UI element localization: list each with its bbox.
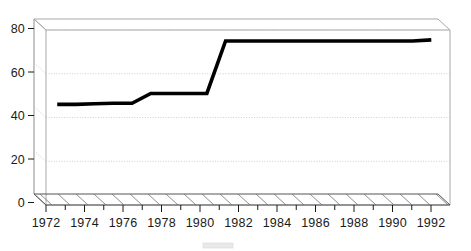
x-axis-label-1986: 1986 [301, 216, 330, 230]
legend-swatch-series-1 [203, 243, 233, 248]
chart-3d-frame [34, 19, 450, 205]
chart-container: 80 60 40 20 0 [0, 0, 471, 251]
y-axis-labels: 80 60 40 20 0 [11, 22, 25, 210]
x-axis-label-1982: 1982 [224, 216, 253, 230]
gridline-depth-20 [34, 150, 46, 161]
gridline-depth-40 [34, 107, 46, 118]
top-depth-edge [34, 19, 450, 30]
x-axis-ticks [46, 205, 431, 212]
floor-hatching [40, 194, 448, 205]
y-axis-ticks [28, 29, 34, 203]
y-axis-label-80: 80 [11, 22, 25, 36]
y-axis-label-60: 60 [11, 66, 25, 80]
line-chart: 80 60 40 20 0 [0, 0, 471, 251]
y-axis-label-0: 0 [18, 196, 25, 210]
x-axis-label-1978: 1978 [147, 216, 176, 230]
chart-floor [34, 194, 450, 205]
gridline-depth-60 [34, 63, 46, 74]
x-axis-label-1980: 1980 [186, 216, 215, 230]
legend [203, 243, 233, 248]
x-axis-label-1988: 1988 [340, 216, 369, 230]
data-line-series-1 [57, 40, 431, 105]
x-axis-label-1992: 1992 [417, 216, 446, 230]
data-series-group [57, 40, 431, 105]
x-axis-label-1990: 1990 [378, 216, 407, 230]
x-axis-label-1984: 1984 [263, 216, 292, 230]
x-axis-label-1976: 1976 [109, 216, 138, 230]
x-axis-label-1972: 1972 [32, 216, 61, 230]
x-axis-label-1974: 1974 [70, 216, 99, 230]
x-axis-labels: 1972 1974 1976 1978 1980 1982 1984 1986 … [32, 216, 446, 230]
y-axis-label-20: 20 [11, 153, 25, 167]
y-axis-label-40: 40 [11, 109, 25, 123]
